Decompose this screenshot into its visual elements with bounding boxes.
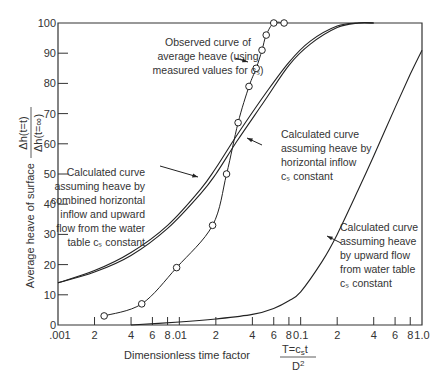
y-tick-label: 100: [38, 17, 56, 29]
x-axis-ticks: .0012468.0124680.124681.0: [49, 317, 429, 341]
x-tick-label: 8: [286, 329, 292, 341]
x-tick-label: 2: [213, 329, 219, 341]
y-fraction-denominator: Δh(t=∞): [32, 114, 44, 152]
annotations: Observed curve ofaverage heave (usingmea…: [51, 36, 418, 289]
annotation-upward: Calculated curveassuming heaveby upward …: [340, 221, 418, 289]
annotation-combined: Calculated curveassuming heave bycombine…: [51, 166, 146, 248]
observed-point-marker: [270, 20, 277, 27]
observed-point-marker: [223, 171, 230, 178]
observed-point-marker: [235, 119, 242, 126]
x-tick-label: 1.0: [414, 329, 429, 341]
x-tick-label: 6: [149, 329, 155, 341]
x-tick-label: 4: [371, 329, 377, 341]
y-tick-label: 10: [44, 289, 56, 301]
x-fraction-denominator: D2: [292, 359, 305, 372]
x-tick-label: .001: [49, 329, 70, 341]
arrow-combined: [160, 166, 198, 177]
y-fraction-numerator: Δh(t=t): [17, 116, 29, 149]
x-fraction-numerator: T=cst: [282, 343, 308, 357]
annotation-observed: Observed curve ofaverage heave (usingmea…: [153, 36, 264, 76]
y-tick-label: 90: [44, 47, 56, 59]
x-tick-label: 0.1: [293, 329, 308, 341]
observed-point-marker: [209, 222, 216, 229]
x-tick-label: 6: [271, 329, 277, 341]
observed-point-marker: [138, 301, 145, 308]
arrowhead-icon: [247, 138, 253, 142]
y-axis-title: Average heave of surface Δh(t=t) Δh(t=∞): [17, 107, 44, 288]
y-axis-label: Average heave of surface: [24, 163, 36, 288]
x-tick-label: 2: [334, 329, 340, 341]
observed-point-marker: [281, 20, 288, 27]
observed-point-marker: [259, 47, 266, 54]
arrowhead-icon: [327, 236, 333, 240]
y-tick-label: 60: [44, 138, 56, 150]
annotation-horizontal: Calculated curveassuming heave byhorizon…: [281, 128, 372, 182]
x-tick-label: 2: [91, 329, 97, 341]
x-tick-label: .01: [172, 329, 187, 341]
x-axis-label: Dimensionless time factor: [124, 349, 250, 361]
observed-point-marker: [263, 32, 270, 39]
observed-point-marker: [173, 264, 180, 271]
y-axis-ticks: 0102030405060708090100: [38, 17, 68, 331]
x-tick-label: 4: [249, 329, 255, 341]
y-tick-label: 80: [44, 77, 56, 89]
x-tick-label: 4: [128, 329, 134, 341]
y-tick-label: 30: [44, 228, 56, 240]
arrowhead-icon: [192, 173, 198, 177]
x-axis-title: Dimensionless time factor T=cst D2: [124, 343, 316, 372]
y-tick-label: 70: [44, 108, 56, 120]
observed-point-marker: [246, 83, 253, 90]
observed-point-marker: [101, 313, 108, 320]
y-tick-label: 20: [44, 259, 56, 271]
x-tick-label: 8: [407, 329, 413, 341]
y-tick-label: 50: [44, 168, 56, 180]
x-tick-label: 8: [165, 329, 171, 341]
x-tick-label: 6: [392, 329, 398, 341]
heave-chart: 0102030405060708090100 .0012468.0124680.…: [0, 0, 445, 382]
